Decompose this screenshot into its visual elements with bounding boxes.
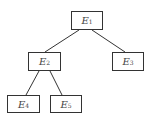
node-e3: E3 xyxy=(112,52,144,71)
node-e5-subscript: 5 xyxy=(68,102,72,109)
node-e5: E5 xyxy=(50,95,82,113)
node-e3-subscript: 3 xyxy=(130,59,134,66)
node-e2-label: E xyxy=(39,56,46,67)
node-e4-label: E xyxy=(18,99,25,110)
edge-e2-e4 xyxy=(26,71,39,95)
node-e5-label: E xyxy=(60,99,67,110)
node-e3-label: E xyxy=(122,56,129,67)
node-e1-label: E xyxy=(81,15,88,26)
edge-e1-e3 xyxy=(92,30,125,52)
tree-diagram: E1 E2 E3 E4 E5 xyxy=(0,0,152,128)
edge-e1-e2 xyxy=(45,30,79,52)
node-e2: E2 xyxy=(28,52,61,71)
node-e4-subscript: 4 xyxy=(25,102,29,109)
node-e2-subscript: 2 xyxy=(46,59,50,66)
node-e1-subscript: 1 xyxy=(89,18,93,25)
edge-e2-e5 xyxy=(50,71,62,95)
node-e4: E4 xyxy=(7,95,40,113)
node-e1: E1 xyxy=(71,11,103,30)
